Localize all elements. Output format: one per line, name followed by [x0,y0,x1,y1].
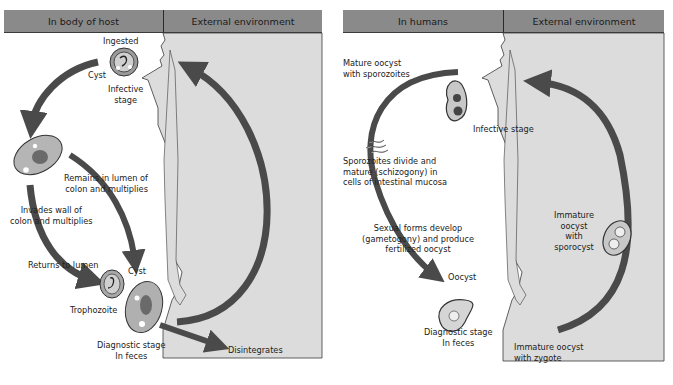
label-diagnostic-stage-right: Diagnostic stage In feces [424,327,493,348]
label-remains-line1: Remains in lumen of [64,173,148,184]
label-cyst-bottom: Cyst [128,266,146,277]
label-diagnostic-line2: In feces [97,351,166,362]
label-mature-line1: Mature oocyst [343,58,410,69]
label-sexual-line2: (gametogony) and produce [362,234,474,245]
label-invades-line1: Invades wall of [10,205,93,216]
cyst-top-icon [110,48,138,76]
mature-oocyst-icon [446,81,466,121]
label-diagnostic-line1: Diagnostic stage [97,340,166,351]
label-sporozoites-line2: mature (schizogony) in [343,167,447,178]
label-invades-line2: colon and multiplies [10,216,93,227]
label-sexual-forms: Sexual forms develop (gametogony) and pr… [362,223,474,255]
label-sexual-line3: fertilized oocyst [362,244,474,255]
label-diagnostic-stage-left: Diagnostic stage In feces [97,340,166,361]
label-ingested: Ingested [103,36,139,47]
cyst-bottom-icon [100,270,124,298]
label-sporozoites-line1: Sporozoites divide and [343,156,447,167]
label-mature-oocyst: Mature oocyst with sporozoites [343,58,410,79]
label-oocyst: Oocyst [448,272,476,283]
label-cyst-top: Cyst [88,70,106,81]
label-infective-line1: Infective [108,84,143,95]
label-sporozoites-line3: cells of intestinal mucosa [343,177,447,188]
label-immature-spor-line1: Immature [554,210,594,221]
header-in-body-of-host: In body of host [4,10,164,33]
label-trophozoite: Trophozoite [70,305,117,316]
label-immature-zyg-line1: Immature oocyst [514,342,583,353]
label-immature-spor-line2: oocyst [554,221,594,232]
label-remains-line2: colon and multiplies [64,184,148,195]
label-mature-line2: with sporozoites [343,69,410,80]
label-immature-spor-line3: with [554,231,594,242]
label-immature-oocyst-sporocyst: Immature oocyst with sporocyst [554,210,594,252]
label-sporozoites: Sporozoites divide and mature (schizogon… [343,156,447,188]
label-returns-lumen: Returns to lumen [28,260,99,271]
label-invades-wall: Invades wall of colon and multiplies [10,205,93,226]
right-lifecycle-panel: In humans External environment Mature oo… [340,0,673,385]
left-diagram-graphics [0,0,340,385]
header-external-environment-left: External environment [164,10,322,33]
header-in-humans: In humans [343,10,504,33]
label-diagnostic-right-line2: In feces [424,338,493,349]
label-infective-stage: Infective stage [108,84,143,105]
label-disintegrates: Disintegrates [228,345,283,356]
header-external-environment-right: External environment [504,10,664,33]
label-immature-zyg-line2: with zygote [514,353,583,364]
left-lifecycle-panel: In body of host External environment Ing… [0,0,340,385]
trophozoite-middle-icon [7,127,69,182]
label-sexual-line1: Sexual forms develop [362,223,474,234]
label-diagnostic-right-line1: Diagnostic stage [424,327,493,338]
label-immature-spor-line4: sporocyst [554,242,594,253]
label-remains-lumen: Remains in lumen of colon and multiplies [64,173,148,194]
label-immature-oocyst-zygote: Immature oocyst with zygote [514,342,583,363]
label-infective-stage-right: Infective stage [473,124,534,135]
label-infective-line2: stage [108,95,143,106]
